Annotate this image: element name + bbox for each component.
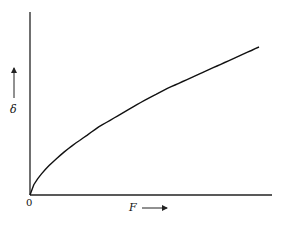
origin-label: 0 <box>26 197 32 208</box>
y-axis-label: δ <box>10 103 17 116</box>
data-curve <box>30 47 259 195</box>
x-axis-label: F <box>129 201 137 214</box>
chart-canvas <box>0 0 281 225</box>
chart: 0 F δ <box>0 0 281 225</box>
